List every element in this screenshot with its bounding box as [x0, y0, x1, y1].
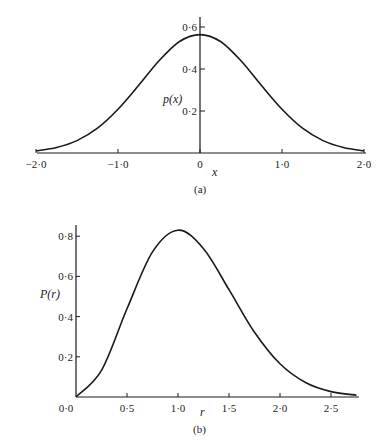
y-axis-title-a: p(x) — [162, 92, 182, 106]
x-tick-label: −1·0 — [108, 158, 129, 170]
x-tick-label: 0 — [197, 158, 203, 170]
x-tick-label: 2·0 — [357, 158, 372, 170]
x-tick-label: 2·5 — [324, 402, 339, 414]
panel-b: 0·00·51·01·52·02·5 0·20·40·60·8 P(r) r (… — [39, 225, 359, 436]
curve-P-r — [76, 230, 357, 397]
panel-a: −2·0−1·001·02·0 0·20·40·6 p(x) x (a) — [26, 17, 372, 196]
y-tick-label: 0·6 — [58, 270, 73, 282]
caption-a: (a) — [194, 183, 207, 196]
x-axis-title-b: r — [200, 405, 205, 419]
y-tick-label: 0·8 — [58, 230, 73, 242]
y-tick-label: 0·2 — [58, 351, 73, 363]
x-ticks-b: 0·00·51·01·52·02·5 — [59, 393, 339, 414]
y-tick-label: 0·4 — [182, 63, 197, 75]
y-ticks-b: 0·20·40·60·8 — [58, 230, 80, 363]
x-tick-label: 1·0 — [275, 158, 290, 170]
x-tick-label: 1·0 — [171, 402, 186, 414]
x-tick-label: 0·0 — [59, 402, 74, 414]
x-tick-label: 0·5 — [120, 402, 135, 414]
y-tick-label: 0·6 — [182, 21, 197, 33]
x-ticks-a: −2·0−1·001·02·0 — [26, 149, 372, 170]
x-axis-title-a: x — [211, 165, 218, 179]
caption-b: (b) — [193, 423, 206, 436]
figure: −2·0−1·001·02·0 0·20·40·6 p(x) x (a) 0·0… — [0, 0, 389, 441]
x-tick-label: 1·5 — [222, 402, 237, 414]
y-tick-label: 0·4 — [58, 311, 73, 323]
y-axis-title-b: P(r) — [39, 287, 60, 301]
x-tick-label: 2·0 — [273, 402, 288, 414]
x-tick-label: −2·0 — [26, 158, 47, 170]
y-tick-label: 0·2 — [182, 105, 197, 117]
